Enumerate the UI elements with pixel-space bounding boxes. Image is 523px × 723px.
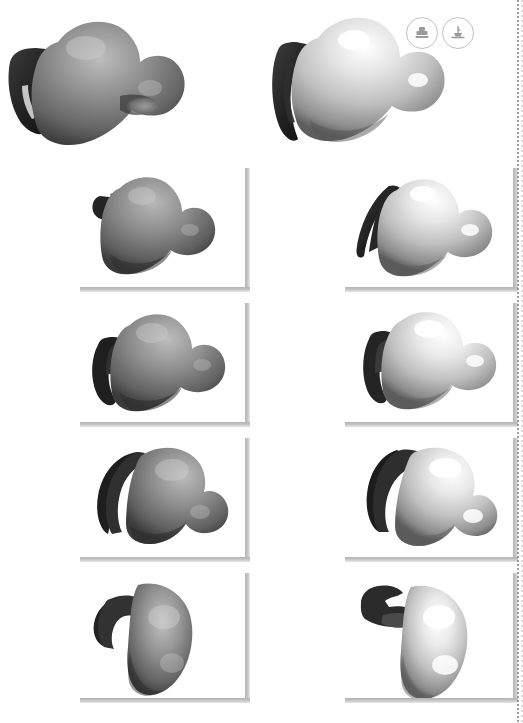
figure-cell-r2c2 [345,168,518,292]
figure-cell-r4c2 [345,438,518,562]
seal-badge-icon[interactable] [442,17,474,49]
organ-render-r1c1 [0,0,250,168]
organ-render-r2c1 [80,168,250,292]
figure-cell-r3c2 [345,303,518,427]
stamp-badge-icon[interactable] [406,17,438,49]
organ-render-r3c1 [80,303,250,427]
organ-render-r4c1 [80,438,250,562]
organ-render-r5c2 [345,573,518,703]
figure-cell-r3c1 [80,303,250,427]
figure-cell-r5c1 [80,573,250,703]
organ-render-r5c1 [80,573,250,703]
organ-render-r3c2 [345,303,518,427]
figure-page [0,0,523,723]
scan-edge-dotted-line [517,0,519,723]
figure-cell-r4c1 [80,438,250,562]
watermark-badge-group [406,17,474,49]
organ-render-r4c2 [345,438,518,562]
organ-render-r2c2 [345,168,518,292]
figure-cell-r2c1 [80,168,250,292]
figure-cell-r1c1 [0,0,250,168]
figure-cell-r5c2 [345,573,518,703]
